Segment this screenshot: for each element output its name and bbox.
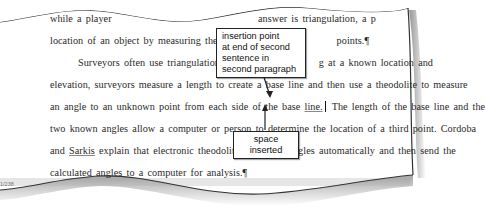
line-text: answer is triangulation, a p: [258, 13, 376, 24]
callout-line: space inserted: [239, 134, 293, 156]
callout-line: sentence in: [222, 53, 300, 64]
line-text: The length of the base line and the: [328, 101, 485, 112]
callout-line: insertion point: [222, 31, 300, 42]
doc-line-5: an angle to an unknown point from each s…: [50, 101, 485, 112]
doc-line-4: elevation, surveyors measure a length to…: [50, 79, 468, 90]
underlined-word: line.: [305, 101, 323, 112]
line-text: elevation, surveyors measure a length to…: [50, 79, 468, 90]
pilcrow-mark: ¶: [364, 35, 369, 46]
underlined-word: Sarkis: [69, 145, 95, 156]
pilcrow-mark: ¶: [243, 167, 248, 178]
doc-line-8: calculated angles to a computer for anal…: [50, 167, 247, 178]
callout-line: at end of second: [222, 42, 300, 53]
line-text: calculated angles to a computer for anal…: [50, 167, 243, 178]
line-text: g at a known location and: [319, 57, 433, 68]
doc-line-1: while a player answer is triangulation, …: [50, 13, 376, 24]
doc-line-2: location of an object by measuring the a…: [50, 35, 369, 46]
line-text: and: [50, 145, 69, 156]
status-bar-word-count: 1/238: [0, 181, 14, 187]
callout-insertion-point: insertion point at end of second sentenc…: [216, 28, 306, 78]
line-text: points.: [337, 35, 365, 46]
insertion-point-cursor: [325, 101, 326, 112]
line-text: an angle to an unknown point from each s…: [50, 101, 305, 112]
line-text: while a player: [50, 13, 116, 24]
callout-space-inserted: space inserted: [233, 131, 299, 159]
callout-line: second paragraph: [222, 64, 300, 75]
